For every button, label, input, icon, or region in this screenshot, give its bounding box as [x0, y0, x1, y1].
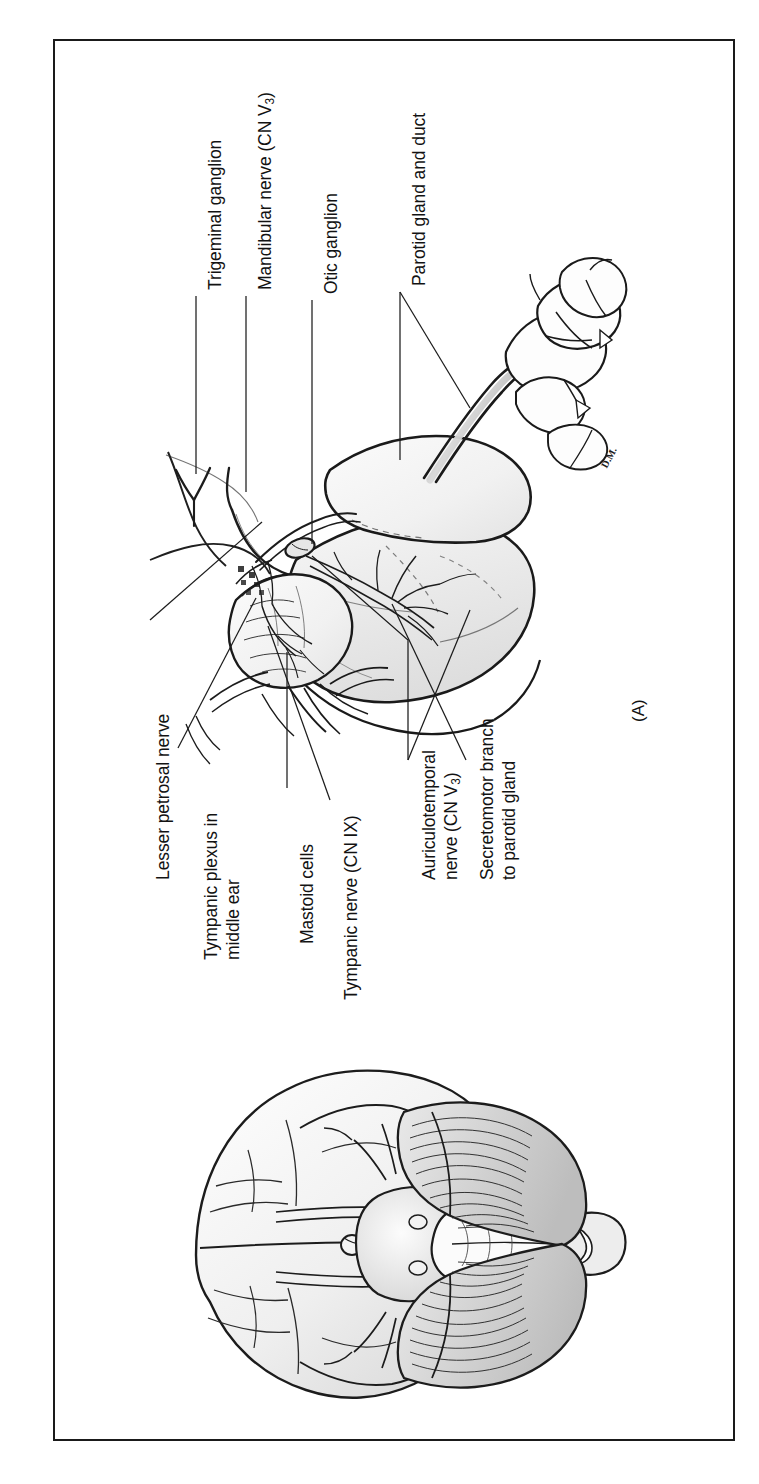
- panel-letter-a: (A): [629, 699, 649, 722]
- parotid-dissection-illustration: [0, 0, 759, 1484]
- label-secretomotor-branch-line2: to parotid gland: [498, 718, 520, 880]
- brain-inferior-view-illustration: [196, 1071, 626, 1398]
- label-auriculotemporal-nerve-subscript: 3: [449, 778, 463, 785]
- label-auriculotemporal-nerve-line1: Auriculotemporal: [418, 750, 440, 880]
- label-mandibular-nerve-paren: ): [255, 92, 275, 98]
- label-auriculotemporal-nerve: Auriculotemporal nerve (CN V3): [418, 750, 464, 880]
- label-auriculotemporal-nerve-paren: ): [441, 773, 461, 779]
- label-parotid-gland-and-duct: Parotid gland and duct: [408, 113, 430, 286]
- label-trigeminal-ganglion-text: Trigeminal ganglion: [205, 140, 225, 290]
- label-auriculotemporal-nerve-line2: nerve (CN V3): [440, 750, 464, 880]
- label-mandibular-nerve-subscript: 3: [263, 98, 277, 105]
- label-lesser-petrosal-nerve: Lesser petrosal nerve: [152, 714, 174, 880]
- label-tympanic-nerve: Tympanic nerve (CN IX): [340, 815, 362, 1000]
- label-otic-ganglion: Otic ganglion: [320, 193, 342, 294]
- label-secretomotor-branch-line1: Secretomotor branch: [476, 718, 498, 880]
- label-tympanic-plexus-line1: Tympanic plexus in: [200, 813, 222, 960]
- label-auriculotemporal-nerve-text: nerve (CN V: [441, 785, 461, 880]
- label-trigeminal-ganglion: Trigeminal ganglion: [204, 140, 226, 290]
- label-parotid-gland-and-duct-text: Parotid gland and duct: [409, 113, 429, 286]
- label-mastoid-cells-text: Mastoid cells: [297, 844, 317, 944]
- panel-letter-a-text: (A): [629, 699, 648, 722]
- label-mastoid-cells: Mastoid cells: [296, 844, 318, 944]
- label-otic-ganglion-text: Otic ganglion: [321, 193, 341, 294]
- label-tympanic-nerve-text: Tympanic nerve (CN IX): [341, 815, 361, 1000]
- label-lesser-petrosal-nerve-text: Lesser petrosal nerve: [153, 714, 173, 880]
- label-mandibular-nerve-text: Mandibular nerve (CN V: [255, 104, 275, 290]
- label-mandibular-nerve: Mandibular nerve (CN V3): [254, 92, 278, 290]
- label-tympanic-plexus-line2: middle ear: [222, 813, 244, 960]
- label-tympanic-plexus: Tympanic plexus in middle ear: [200, 813, 244, 960]
- figure-page: Trigeminal ganglion Mandibular nerve (CN…: [0, 0, 759, 1484]
- upper-anatomy-group: [150, 258, 626, 764]
- molar-teeth: [506, 258, 627, 470]
- label-secretomotor-branch: Secretomotor branch to parotid gland: [476, 718, 520, 880]
